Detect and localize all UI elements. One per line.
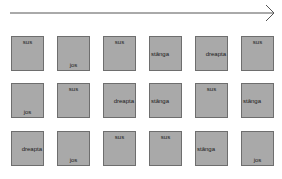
cell-label: stânga	[151, 51, 181, 57]
cell-label: sus	[12, 39, 43, 45]
cell-label: stânga	[197, 146, 227, 152]
cell-label: jos	[58, 157, 89, 163]
grid-cell: stânga	[149, 36, 182, 71]
cell-label: stânga	[243, 98, 273, 104]
cell-label: sus	[150, 134, 181, 140]
grid-cell: sus	[241, 36, 274, 71]
grid-cell: jos	[241, 131, 274, 166]
grid-cell: sus	[11, 36, 44, 71]
cell-label: sus	[242, 39, 273, 45]
grid-cell: stânga	[195, 131, 228, 166]
cell-label: sus	[196, 86, 227, 92]
cell-label: dreapta	[206, 51, 226, 57]
grid-cell: dreapta	[103, 83, 136, 118]
grid-cell: stânga	[241, 83, 274, 118]
grid-cell: jos	[57, 131, 90, 166]
grid-cell: stânga	[149, 83, 182, 118]
arrow-right-icon	[0, 0, 282, 30]
cell-label: sus	[104, 134, 135, 140]
grid-cell: sus	[149, 131, 182, 166]
cell-label: sus	[58, 86, 89, 92]
grid-cell: sus	[103, 131, 136, 166]
grid-cell: sus	[57, 83, 90, 118]
cell-label: jos	[58, 62, 89, 68]
grid-cell: sus	[195, 83, 228, 118]
grid-cell: dreapta	[195, 36, 228, 71]
grid-cell: jos	[57, 36, 90, 71]
grid-cell: dreapta	[11, 131, 44, 166]
cell-label: stânga	[151, 98, 181, 104]
grid-cell: jos	[11, 83, 44, 118]
cell-label: sus	[104, 39, 135, 45]
cell-label: jos	[12, 109, 43, 115]
cell-label: dreapta	[22, 146, 42, 152]
grid-cell: sus	[103, 36, 136, 71]
cell-label: jos	[242, 157, 273, 163]
cell-label: dreapta	[114, 98, 134, 104]
